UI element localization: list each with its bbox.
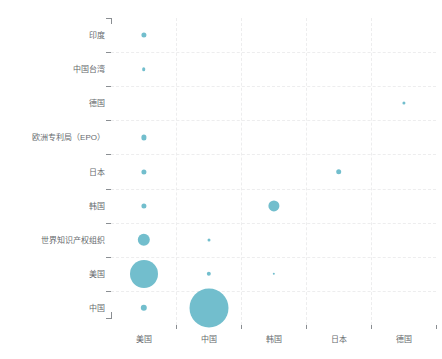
gridline-vertical (306, 18, 307, 325)
gridline-horizontal (111, 120, 436, 121)
y-axis-label: 日本 (89, 168, 105, 177)
y-axis-label: 德国 (89, 99, 105, 108)
x-axis-label: 德国 (396, 335, 412, 344)
y-axis-label: 印度 (89, 31, 105, 40)
bubble-point[interactable] (189, 288, 228, 327)
y-axis-tick (106, 52, 111, 53)
x-axis-tick (176, 325, 177, 329)
bubble-point[interactable] (336, 169, 342, 175)
x-axis-label: 韩国 (266, 335, 282, 344)
x-axis-label: 中国 (201, 335, 217, 344)
y-axis-tick (106, 154, 111, 155)
gridline-horizontal (111, 189, 436, 190)
y-axis-label: 世界知识产权组织 (41, 236, 105, 245)
y-axis-tick (106, 223, 111, 224)
x-axis-tick (436, 325, 437, 329)
gridline-horizontal (111, 223, 436, 224)
y-axis-tick (106, 257, 111, 258)
x-axis-tick (306, 325, 307, 329)
plot-area (111, 18, 436, 325)
gridline-vertical (176, 18, 177, 325)
y-axis-tick (106, 120, 111, 121)
gridline-horizontal (111, 86, 436, 87)
bubble-chart: 印度中国台湾德国欧洲专利局（EPO）日本韩国世界知识产权组织美国中国 美国中国韩… (0, 0, 442, 359)
x-axis-label: 美国 (136, 335, 152, 344)
x-axis-label: 日本 (331, 335, 347, 344)
y-axis-label: 中国台湾 (73, 65, 105, 74)
y-axis-label: 美国 (89, 270, 105, 279)
bubble-point[interactable] (142, 67, 146, 71)
x-axis-tick (371, 325, 372, 329)
y-axis-label: 韩国 (89, 202, 105, 211)
y-axis-label: 欧洲专利局（EPO） (32, 133, 105, 142)
gridline-horizontal (111, 257, 436, 258)
gridline-vertical (371, 18, 372, 325)
bubble-point[interactable] (207, 238, 210, 241)
gridline-vertical (241, 18, 242, 325)
y-axis-tick (106, 86, 111, 87)
gridline-horizontal (111, 52, 436, 53)
y-axis-tick (106, 189, 111, 190)
y-axis-tick (106, 291, 111, 292)
x-axis-tick (241, 325, 242, 329)
gridline-horizontal (111, 154, 436, 155)
bubble-point[interactable] (130, 260, 158, 288)
gridline-horizontal (111, 291, 436, 292)
y-axis-label: 中国 (89, 304, 105, 313)
